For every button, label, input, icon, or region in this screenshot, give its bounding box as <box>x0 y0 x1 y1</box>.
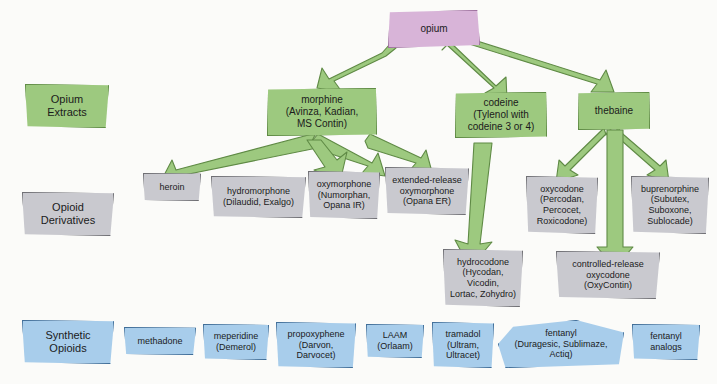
node-fentanyl-analogs-label: fentanylanalogs <box>647 331 685 352</box>
node-methadone: methadone <box>124 327 196 355</box>
node-codeine-label: codeine(Tylenol withcodeine 3 or 4) <box>465 97 538 132</box>
arrow-thebaine-to-cr-oxycodone <box>597 130 633 268</box>
node-buprenorphine-label: buprenorphine(Subutex,Suboxone,Sublocade… <box>638 184 702 226</box>
node-methadone-label: methadone <box>134 336 185 347</box>
node-opium-label: opium <box>417 23 450 35</box>
node-cr-oxycodone: controlled-releaseoxycodone(OxyContin) <box>556 251 660 299</box>
node-cr-oxycodone-label: controlled-releaseoxycodone(OxyContin) <box>569 259 647 291</box>
node-morphine: morphine(Avinza, Kadian,MS Contin) <box>267 88 377 136</box>
node-buprenorphine: buprenorphine(Subutex,Suboxone,Sublocade… <box>631 176 709 234</box>
arrow-opium-to-morphine <box>317 44 396 92</box>
node-oxycodone: oxycodone(Percodan,Percocet,Roxicodone) <box>526 176 598 234</box>
category-opium-extracts: Opium Extracts <box>25 84 109 128</box>
node-hydrocodone-label: hydrocodone(Hycodan,Vicodin,Lortac, Zohy… <box>447 257 519 299</box>
node-laam: LAAM(Orlaam) <box>366 324 424 358</box>
diagram-canvas: Opium Extracts Opioid Derivatives Synthe… <box>0 0 717 384</box>
node-thebaine-label: thebaine <box>592 105 636 117</box>
node-morphine-label: morphine(Avinza, Kadian,MS Contin) <box>283 94 362 129</box>
node-er-oxymorphone-label: extended-releaseoxymorphone(Opana ER) <box>389 175 465 207</box>
node-heroin-label: heroin <box>156 182 187 193</box>
node-oxymorphone: oxymorphone(Numorphan,Opana IR) <box>308 171 380 219</box>
node-hydrocodone: hydrocodone(Hycodan,Vicodin,Lortac, Zohy… <box>443 249 523 307</box>
node-hydromorphone-label: hydromorphone(Dilaudid, Exalgo) <box>220 186 297 207</box>
arrow-thebaine-to-oxycodone <box>556 128 612 182</box>
node-opium: opium <box>388 10 480 48</box>
category-opium-extracts-label: Opium Extracts <box>44 93 90 119</box>
node-oxycodone-label: oxycodone(Percodan,Percocet,Roxicodone) <box>534 184 591 226</box>
category-opioid-derivatives: Opioid Derivatives <box>22 192 114 236</box>
node-laam-label: LAAM(Orlaam) <box>374 330 416 351</box>
node-oxymorphone-label: oxymorphone(Numorphan,Opana IR) <box>314 179 375 211</box>
node-meperidine-label: meperidine(Demerol) <box>211 331 262 352</box>
category-synthetic-opioids: Synthetic Opioids <box>22 320 114 364</box>
category-synthetic-opioids-label: Synthetic Opioids <box>42 329 93 355</box>
node-hydromorphone: hydromorphone(Dilaudid, Exalgo) <box>211 176 306 218</box>
node-fentanyl-label: fentanyl(Duragesic, Sublimaze,Actiq) <box>511 328 610 360</box>
node-heroin: heroin <box>143 173 201 201</box>
node-tramadol: tramadol(Ultram,Ultracet) <box>432 322 494 368</box>
node-er-oxymorphone: extended-releaseoxymorphone(Opana ER) <box>385 167 469 215</box>
node-tramadol-label: tramadol(Ultram,Ultracet) <box>442 329 483 361</box>
category-opioid-derivatives-label: Opioid Derivatives <box>38 201 98 227</box>
node-thebaine: thebaine <box>578 92 650 130</box>
node-meperidine: meperidine(Demerol) <box>203 324 269 360</box>
node-fentanyl-analogs: fentanylanalogs <box>632 324 700 360</box>
node-codeine: codeine(Tylenol withcodeine 3 or 4) <box>455 92 547 138</box>
node-propoxyphene: propoxyphene(Darvon,Darvocet) <box>276 322 356 368</box>
node-propoxyphene-label: propoxyphene(Darvon,Darvocet) <box>284 329 347 361</box>
